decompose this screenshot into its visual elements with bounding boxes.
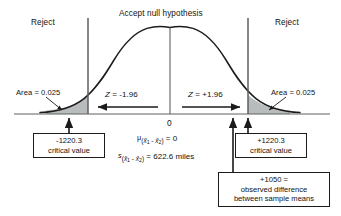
right-critical-value: +1220.3 [239, 136, 303, 146]
left-critical-value: -1220.3 [37, 136, 101, 146]
reject-label-left: Reject [31, 18, 55, 27]
center-zero-label: 0 [167, 119, 172, 128]
se-equals: = 622.6 miles [144, 152, 194, 161]
observed-difference-callout: +1050 = observed difference between samp… [218, 172, 330, 207]
area-label-left: Area = 0.025 [16, 89, 60, 98]
right-area-pointer [269, 97, 286, 110]
z-label-left: Z = -1.96 [105, 91, 138, 100]
mean-formula: μ(x̄1 - x̄2) = 0 [137, 134, 177, 145]
z-label-right: Z = +1.96 [188, 91, 223, 100]
reject-label-right: Reject [275, 18, 299, 27]
left-area-pointer [46, 97, 62, 110]
observed-difference-caption-2: between sample means [222, 194, 326, 204]
se-subscript: (x̄1 - x̄2) [122, 155, 144, 162]
figure-canvas: Reject Reject Accept null hypothesis Are… [0, 0, 341, 216]
standard-error-formula: s(x̄1 - x̄2) = 622.6 miles [118, 152, 194, 163]
right-critical-value-caption: critical value [239, 146, 303, 156]
right-critical-value-callout: +1220.3 critical value [235, 133, 307, 158]
z-value-left: = -1.96 [110, 90, 138, 99]
left-critical-value-callout: -1220.3 critical value [33, 133, 105, 158]
area-label-right: Area = 0.025 [271, 89, 315, 98]
mean-equals: = 0 [164, 134, 178, 143]
mean-subscript: (x̄1 - x̄2) [141, 137, 163, 144]
z-value-right: = +1.96 [193, 90, 223, 99]
observed-difference-value: +1050 = [222, 175, 326, 185]
accept-region-label: Accept null hypothesis [119, 9, 203, 18]
left-critical-value-caption: critical value [37, 146, 101, 156]
observed-difference-caption-1: observed difference [222, 185, 326, 195]
